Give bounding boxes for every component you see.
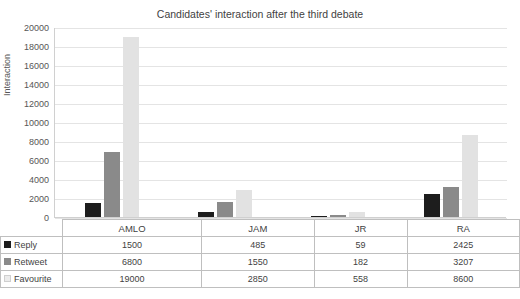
table-cell: 1500 — [63, 237, 202, 254]
y-axis-tick-label: 20000 — [24, 23, 49, 33]
table-row: Retweet680015501823207 — [1, 254, 520, 271]
plot-wrapper: 0200040006000800010000120001400016000180… — [54, 28, 506, 218]
table-category-row: AMLOJAMJRRA — [1, 220, 520, 237]
table-row: Reply1500485592425 — [1, 237, 520, 254]
legend-label: Retweet — [14, 257, 47, 267]
table-cell: 2850 — [202, 271, 314, 288]
bar-group — [55, 27, 168, 217]
table-cell: 19000 — [63, 271, 202, 288]
table-corner-cell — [1, 220, 63, 237]
table-column-header-amlo: AMLO — [63, 220, 202, 237]
bar-group — [168, 27, 281, 217]
bar-reply-amlo — [85, 203, 101, 217]
legend-swatch-favourite-icon — [4, 275, 11, 282]
y-axis-title: Interaction — [2, 54, 12, 96]
legend-item-favourite: Favourite — [1, 271, 63, 288]
table-column-header-jam: JAM — [202, 220, 314, 237]
table-cell: 558 — [314, 271, 407, 288]
table-cell: 485 — [202, 237, 314, 254]
y-axis-tick-label: 6000 — [29, 156, 49, 166]
table-cell: 6800 — [63, 254, 202, 271]
y-axis-tick-label: 10000 — [24, 118, 49, 128]
y-axis-tick-label: 4000 — [29, 175, 49, 185]
legend-item-retweet: Retweet — [1, 254, 63, 271]
legend-label: Favourite — [14, 274, 52, 284]
legend-item-reply: Reply — [1, 237, 63, 254]
bar-retweet-amlo — [104, 152, 120, 217]
y-axis-tick-label: 2000 — [29, 194, 49, 204]
y-axis-tick-label: 14000 — [24, 80, 49, 90]
bar-reply-jam — [198, 212, 214, 217]
bar-reply-jr — [311, 216, 327, 217]
y-axis-tick-label: 16000 — [24, 61, 49, 71]
table-column-header-ra: RA — [407, 220, 519, 237]
bar-reply-ra — [424, 194, 440, 217]
bar-group — [281, 27, 394, 217]
table-cell: 8600 — [407, 271, 519, 288]
bar-favourite-ra — [462, 135, 478, 217]
y-axis-tick-label: 12000 — [24, 99, 49, 109]
table-cell: 2425 — [407, 237, 519, 254]
legend-label: Reply — [14, 240, 37, 250]
data-table-body: AMLOJAMJRRAReply1500485592425Retweet6800… — [1, 220, 520, 288]
bar-retweet-jam — [217, 202, 233, 217]
chart-container: Candidates' interaction after the third … — [0, 0, 520, 299]
y-axis-tick-label: 18000 — [24, 42, 49, 52]
bar-favourite-amlo — [123, 37, 139, 218]
y-axis-tick-label: 8000 — [29, 137, 49, 147]
bar-group — [394, 27, 507, 217]
legend-swatch-reply-icon — [4, 241, 11, 248]
table-row: Favourite1900028505588600 — [1, 271, 520, 288]
table-cell: 59 — [314, 237, 407, 254]
plot-area — [54, 28, 506, 218]
table-cell: 1550 — [202, 254, 314, 271]
chart-title: Candidates' interaction after the third … — [0, 8, 520, 20]
bar-favourite-jr — [349, 212, 365, 217]
table-cell: 3207 — [407, 254, 519, 271]
bar-retweet-ra — [443, 187, 459, 217]
data-table: AMLOJAMJRRAReply1500485592425Retweet6800… — [0, 219, 520, 288]
legend-swatch-retweet-icon — [4, 258, 11, 265]
table-column-header-jr: JR — [314, 220, 407, 237]
bar-favourite-jam — [236, 190, 252, 217]
bar-retweet-jr — [330, 215, 346, 217]
table-cell: 182 — [314, 254, 407, 271]
